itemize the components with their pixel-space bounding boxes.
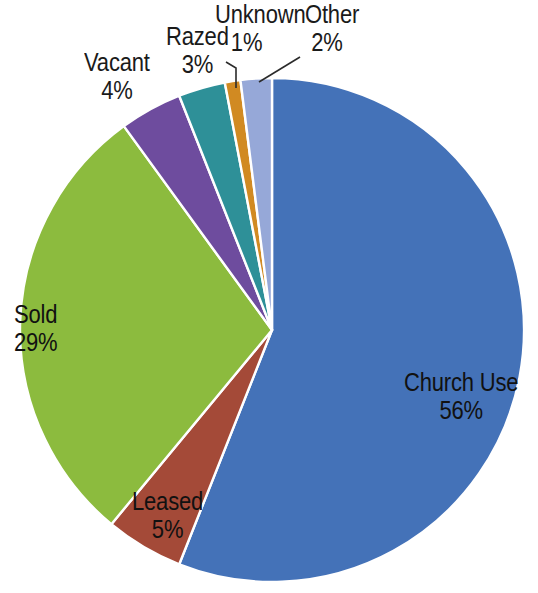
slice-label-other-name: Other: [305, 0, 359, 28]
slice-label-leased-name: Leased: [132, 487, 203, 515]
slice-label-church-use: Church Use 56%: [404, 368, 518, 424]
slice-label-sold-percent: 29%: [14, 328, 58, 356]
slice-label-vacant-percent: 4%: [84, 76, 150, 104]
pie-chart: Church Use 56% Leased 5% Sold 29% Vacant…: [0, 0, 538, 593]
pie-slice-group: [20, 78, 524, 582]
slice-label-other: Other 2%: [305, 0, 359, 56]
slice-label-vacant: Vacant 4%: [84, 48, 150, 104]
slice-label-unknown: Unknown 1%: [215, 0, 305, 56]
slice-label-church-use-percent: 56%: [404, 396, 518, 424]
pie-chart-canvas: [0, 0, 538, 593]
slice-label-leased: Leased 5%: [132, 487, 203, 543]
slice-label-church-use-name: Church Use: [404, 368, 518, 396]
slice-label-leased-percent: 5%: [132, 515, 203, 543]
slice-label-vacant-name: Vacant: [84, 48, 150, 76]
slice-label-sold-name: Sold: [14, 300, 58, 328]
slice-label-unknown-percent: 1%: [231, 28, 306, 56]
slice-label-other-percent: 2%: [311, 28, 359, 56]
slice-label-unknown-name: Unknown: [215, 0, 305, 28]
slice-label-sold: Sold 29%: [14, 300, 58, 356]
